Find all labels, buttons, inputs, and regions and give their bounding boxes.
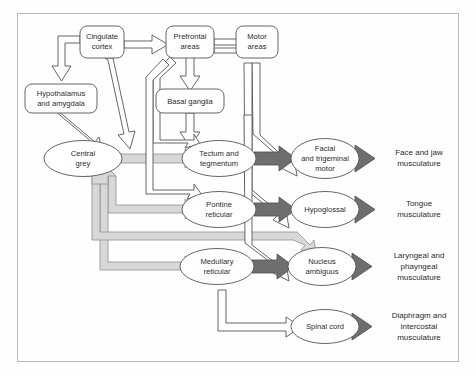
node-label-line1: Spinal cord bbox=[306, 322, 344, 331]
node-label-line1: Tectum and bbox=[199, 149, 238, 158]
node-label-line2: areas bbox=[181, 42, 200, 51]
node-label-line2: and amygdala bbox=[37, 99, 85, 108]
node-label-line2: grey bbox=[76, 159, 91, 168]
node-spinal-cord[interactable]: Spinal cord bbox=[291, 310, 359, 344]
diagram-frame bbox=[18, 14, 459, 362]
output-line2: intercostal bbox=[401, 322, 438, 331]
node-label-line1: Basal ganglia bbox=[167, 97, 213, 106]
node-basal-ganglia[interactable]: Basal ganglia bbox=[156, 89, 224, 113]
node-label-line1: Central bbox=[71, 149, 96, 158]
node-pontine-reticular[interactable]: Pontine reticular bbox=[182, 192, 256, 228]
node-label-line1: Hypothalamus bbox=[37, 89, 86, 98]
node-label-line2: tegmentum bbox=[200, 159, 238, 168]
node-medullary-reticular[interactable]: Medullary reticular bbox=[180, 249, 254, 285]
node-central-grey[interactable]: Central grey bbox=[44, 141, 122, 177]
node-label-line1: Cingulate bbox=[86, 32, 118, 41]
output-line1: Tongue bbox=[406, 199, 433, 208]
node-label-line2: areas bbox=[248, 42, 267, 51]
node-label-line2: ambiguus bbox=[306, 267, 339, 276]
node-motor-areas[interactable]: Motor areas bbox=[236, 26, 278, 58]
node-label-line1: Hypoglossal bbox=[304, 205, 346, 214]
node-hypoglossal[interactable]: Hypoglossal bbox=[291, 192, 359, 228]
node-label-line1: Nucleus bbox=[308, 257, 336, 266]
node-label-line1: Facial bbox=[315, 144, 336, 153]
diagram-canvas: Cingulate cortex Prefrontal areas Motor … bbox=[0, 0, 476, 377]
output-line1: Diaphragm and bbox=[392, 311, 447, 320]
output-line3: musculature bbox=[397, 273, 441, 282]
output-line2: musculature bbox=[397, 210, 441, 219]
output-line2: phayngeal bbox=[401, 262, 438, 271]
node-nucleus-ambiguus[interactable]: Nucleus ambiguus bbox=[288, 248, 356, 286]
output-label-laryngeal-pharyngeal: Laryngeal and phayngeal musculature bbox=[394, 251, 445, 282]
output-line1: Face and jaw bbox=[395, 148, 443, 157]
node-label-line1: Motor bbox=[247, 32, 267, 41]
node-label-line1: Pontine bbox=[206, 200, 232, 209]
node-cingulate-cortex[interactable]: Cingulate cortex bbox=[80, 26, 124, 58]
node-label-line2: and trigeminal bbox=[301, 154, 349, 163]
output-line3: musculature bbox=[397, 333, 441, 342]
node-label-line2: reticular bbox=[205, 210, 232, 219]
node-tectum-tegmentum[interactable]: Tectum and tegmentum bbox=[182, 141, 256, 177]
pathway-diagram: Cingulate cortex Prefrontal areas Motor … bbox=[0, 0, 476, 377]
node-label-line2: cortex bbox=[92, 42, 113, 51]
node-label-line3: motor bbox=[315, 164, 335, 173]
node-label-line1: Medullary bbox=[201, 257, 234, 266]
node-hypothalamus-amygdala[interactable]: Hypothalamus and amygdala bbox=[25, 84, 97, 113]
output-line2: musculature bbox=[397, 159, 441, 168]
node-facial-trigeminal-motor[interactable]: Facial and trigeminal motor bbox=[291, 139, 359, 179]
output-line1: Laryngeal and bbox=[394, 251, 445, 260]
node-prefrontal-areas[interactable]: Prefrontal areas bbox=[166, 26, 214, 58]
node-label-line1: Prefrontal bbox=[174, 32, 207, 41]
node-label-line2: reticular bbox=[203, 267, 230, 276]
